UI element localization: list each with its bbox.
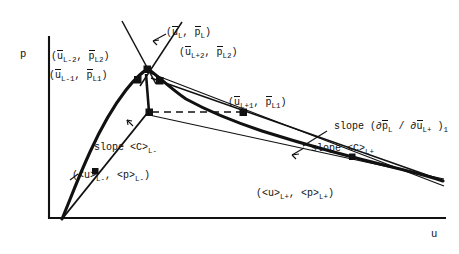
label-uL-pL: (uL, pL): [166, 27, 211, 39]
chord-slope-C-Lminus: [62, 111, 149, 219]
label-slope-C-Lplus: slope <C>L+: [311, 143, 374, 155]
label-avg-Lplus: (<u>L+, <p>L+): [256, 188, 334, 200]
leader-slope-CLplus-head: [292, 154, 299, 159]
y-axis-label: p: [20, 48, 26, 60]
label-avg-Lminus-text: (<u>L-, <p>L-): [72, 170, 150, 181]
label-uLp1-pL1: (uL+1, pL1): [228, 97, 287, 109]
apex-to-Lm1-segment: [146, 74, 149, 112]
leader-uL-pL-arrow: [153, 34, 166, 41]
label-slope-C-Lminus-text: slope <C>L-: [94, 142, 157, 153]
label-avg-Lplus-text: (<u>L+, <p>L+): [256, 188, 334, 199]
label-uLp2-pL2: (uL+2, pL2): [179, 47, 238, 59]
label-uLp1-pL1-text: (uL+1, pL1): [228, 97, 287, 108]
label-uLm2-pL2-text: (uL-2, pL2): [51, 51, 110, 62]
label-uLm1-pL1-text: (uL-1, pL1): [49, 70, 108, 81]
label-slope-partial-text: slope (∂pL / ∂uL+ )1: [334, 121, 448, 132]
label-avg-Lminus: (<u>L-, <p>L-): [72, 170, 150, 182]
leader-uL-pL-head: [153, 40, 159, 45]
label-slope-partial: slope (∂pL / ∂uL+ )1: [334, 121, 448, 133]
label-slope-C-Lminus: slope <C>L-: [94, 142, 157, 154]
label-uLm1-pL1: (uL-1, pL1): [49, 70, 108, 82]
marker-uLm2-pL2: [134, 76, 142, 84]
pu-diagram: p u (uL, pL) (uL-2, pL2) (uL-1, pL1) (uL…: [0, 0, 459, 254]
label-uL-pL-text: (uL, pL): [166, 27, 211, 38]
x-axis-label: u: [431, 228, 437, 240]
marker-uL-pL: [144, 66, 152, 74]
marker-uLm1-pL1: [146, 109, 154, 117]
label-slope-C-Lplus-text: slope <C>L+: [311, 143, 374, 154]
label-uLm2-pL2: (uL-2, pL2): [51, 51, 110, 63]
label-uLp2-pL2-text: (uL+2, pL2): [179, 47, 238, 58]
marker-uLp2-pL2: [156, 77, 164, 85]
